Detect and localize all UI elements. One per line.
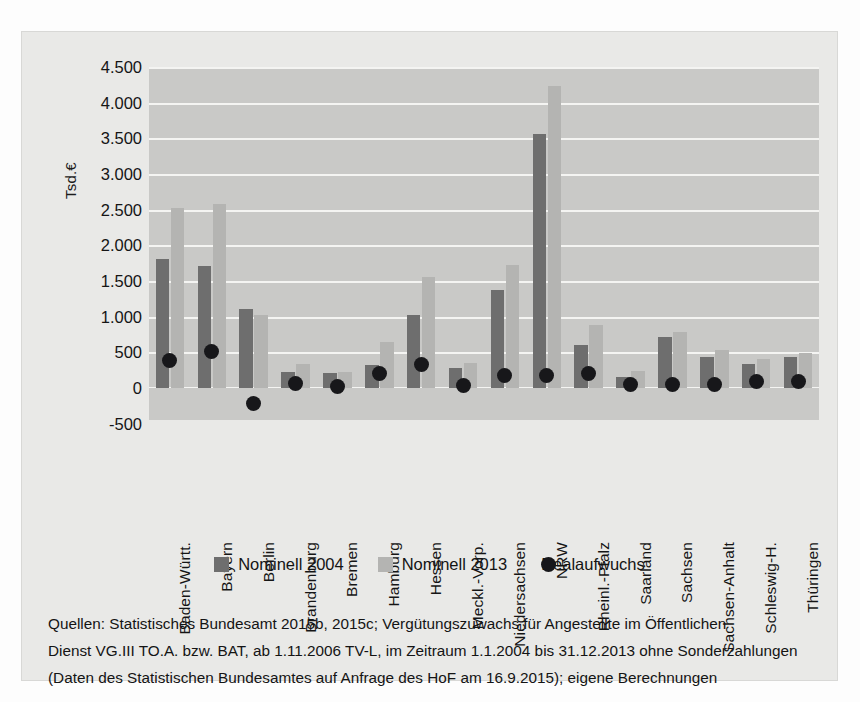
bar-group (442, 67, 484, 388)
bar-group (652, 67, 694, 388)
bar-nominell-2013 (213, 204, 227, 388)
bar-group (735, 67, 777, 388)
scanned-figure-page: Tsd.€ 4.5004.0003.5003.0002.5002.0001.50… (0, 0, 860, 702)
chart-legend: Nominell 2004 Nominell 2013 Realaufwuchs (22, 555, 837, 574)
realaufwuchs-marker (414, 357, 429, 372)
bar-group (568, 67, 610, 388)
realaufwuchs-marker (665, 377, 680, 392)
y-tick-label: 0 (64, 379, 142, 398)
y-tick-label: 500 (64, 343, 142, 362)
bar-group (526, 67, 568, 388)
bar-group (275, 67, 317, 388)
y-tick-label: 1.000 (64, 307, 142, 326)
bar-group (400, 67, 442, 388)
x-tick-label: Thüringen (804, 542, 822, 613)
bar-group (484, 67, 526, 388)
realaufwuchs-marker (372, 366, 387, 381)
y-tick-label: 3.000 (64, 165, 142, 184)
y-tick-label: 2.500 (64, 200, 142, 219)
realaufwuchs-marker (623, 377, 638, 392)
x-axis-tick-labels: Baden-Württ.BayernBerlinBrandenburgBreme… (149, 424, 819, 544)
source-line: (Daten des Statistischen Bundesamtes auf… (48, 664, 838, 691)
legend-label: Nominell 2004 (238, 555, 343, 574)
legend-label: Nominell 2013 (402, 555, 507, 574)
bar-group (233, 67, 275, 388)
bar-nominell-2013 (548, 86, 562, 388)
bar-nominell-2013 (254, 315, 268, 388)
realaufwuchs-marker (749, 374, 764, 389)
bar-group (610, 67, 652, 388)
y-tick-label: 3.500 (64, 129, 142, 148)
bar-group (317, 67, 359, 388)
legend-item-realaufwuchs: Realaufwuchs (541, 555, 645, 574)
y-tick-label: 4.500 (64, 58, 142, 77)
y-tick-label: -500 (64, 414, 142, 433)
source-line: Quellen: Statistisches Bundesamt 2015b, … (48, 610, 838, 637)
source-note: Quellen: Statistisches Bundesamt 2015b, … (48, 610, 838, 691)
bar-chart: Tsd.€ 4.5004.0003.5003.0002.5002.0001.50… (22, 32, 837, 532)
realaufwuchs-marker (456, 378, 471, 393)
realaufwuchs-marker (330, 379, 345, 394)
y-tick-label: 4.000 (64, 93, 142, 112)
bar-nominell-2004 (407, 315, 421, 388)
square-dark-swatch-icon (214, 557, 229, 572)
bar-group (777, 67, 819, 388)
legend-item-nominell-2013: Nominell 2013 (378, 555, 507, 574)
legend-item-nominell-2004: Nominell 2004 (214, 555, 343, 574)
figure-panel: Tsd.€ 4.5004.0003.5003.0002.5002.0001.50… (22, 32, 837, 680)
bar-group (693, 67, 735, 388)
y-tick-label: 1.500 (64, 272, 142, 291)
y-tick-label: 2.000 (64, 236, 142, 255)
realaufwuchs-marker (791, 374, 806, 389)
bar-nominell-2013 (380, 342, 394, 388)
bar-group (149, 67, 191, 388)
realaufwuchs-marker (581, 366, 596, 381)
bar-nominell-2004 (239, 309, 253, 388)
bar-series-container (149, 67, 819, 388)
y-axis-tick-labels: 4.5004.0003.5003.0002.5002.0001.5001.000… (64, 32, 142, 532)
bar-nominell-2004 (198, 266, 212, 388)
source-line: Dienst VG.III TO.A. bzw. BAT, ab 1.11.20… (48, 637, 838, 664)
square-light-swatch-icon (378, 557, 393, 572)
bar-group (191, 67, 233, 388)
realaufwuchs-marker (707, 377, 722, 392)
bar-nominell-2004 (156, 259, 170, 388)
x-tick-label: Hamburg (385, 542, 403, 606)
bar-nominell-2004 (533, 134, 547, 388)
bar-group (358, 67, 400, 388)
legend-label: Realaufwuchs (541, 555, 645, 574)
